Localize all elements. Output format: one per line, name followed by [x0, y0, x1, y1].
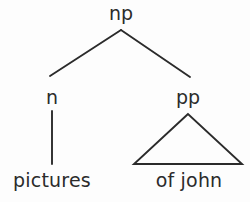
node-label-np: np: [109, 4, 133, 23]
syntax-tree-diagram: np n pp pictures of john: [0, 0, 250, 202]
node-label-pp: pp: [176, 88, 200, 107]
edge-np-to-pp: [121, 30, 190, 77]
node-label-n: n: [46, 88, 58, 107]
edge-np-to-n: [50, 30, 121, 76]
terminal-label-of-john: of john: [156, 171, 223, 190]
edge-pp-triangle: [134, 114, 242, 164]
terminal-label-pictures: pictures: [13, 171, 91, 190]
